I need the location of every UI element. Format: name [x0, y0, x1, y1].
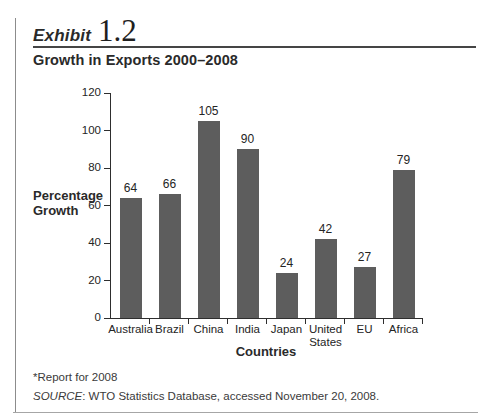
footnote-source: SOURCE: WTO Statistics Database, accesse…	[33, 390, 379, 402]
y-axis-tick	[104, 243, 110, 244]
bar-value-label: 42	[306, 222, 346, 236]
footnote-source-label: SOURCE	[33, 390, 82, 402]
exhibit-page: Exhibit 1.2 Growth in Exports 2000–2008 …	[0, 0, 478, 420]
bar-value-label: 90	[228, 132, 268, 146]
y-axis-tick-label: 60	[63, 199, 101, 211]
bar-eu	[354, 267, 376, 318]
chart-title: Growth in Exports 2000–2008	[33, 52, 238, 68]
bottom-border-rule	[13, 412, 478, 413]
header-rule	[33, 46, 476, 48]
bar-united-states	[315, 239, 337, 318]
bar-value-label: 105	[189, 104, 229, 118]
bar-value-label: 27	[345, 250, 385, 264]
bar-value-label: 64	[111, 181, 151, 195]
plot-area: 02040608010012064Australia66Brazil105Chi…	[110, 93, 423, 319]
left-border-rule	[15, 18, 16, 413]
exhibit-number: 1.2	[98, 13, 137, 49]
y-axis-tick	[104, 168, 110, 169]
y-axis-tick-label: 0	[63, 311, 101, 323]
bar-australia	[120, 198, 142, 318]
x-axis-title: Countries	[110, 344, 422, 359]
bar-africa	[393, 170, 415, 318]
y-axis-tick	[104, 130, 110, 131]
bar-india	[237, 149, 259, 318]
bar-value-label: 66	[150, 177, 190, 191]
y-axis-tick-label: 120	[63, 86, 101, 98]
y-axis-tick-label: 100	[63, 124, 101, 136]
bar-value-label: 79	[384, 153, 424, 167]
footnote-source-text: : WTO Statistics Database, accessed Nove…	[82, 390, 379, 402]
y-axis-tick	[104, 318, 110, 319]
y-axis-tick-label: 40	[63, 236, 101, 248]
exhibit-header: Exhibit 1.2	[33, 13, 137, 49]
bar-value-label: 24	[267, 256, 307, 270]
bar-japan	[276, 273, 298, 318]
y-axis-tick	[104, 205, 110, 206]
y-axis-tick-label: 20	[63, 274, 101, 286]
y-axis-tick	[104, 280, 110, 281]
y-axis-tick-label: 80	[63, 161, 101, 173]
bar-brazil	[159, 194, 181, 318]
category-label: Africa	[377, 323, 431, 336]
y-axis-tick	[104, 93, 110, 94]
bar-china	[198, 121, 220, 318]
exhibit-label: Exhibit	[33, 26, 91, 46]
footnote-report: *Report for 2008	[33, 371, 117, 383]
